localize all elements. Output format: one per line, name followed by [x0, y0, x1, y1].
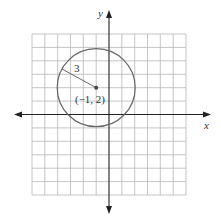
- y-axis-down-arrow-icon: [106, 206, 112, 214]
- y-axis-label: y: [97, 7, 103, 19]
- coordinate-plane: y x 3 (−1, 2): [0, 0, 221, 218]
- radius-label: 3: [74, 62, 80, 74]
- y-axis-up-arrow-icon: [106, 10, 112, 18]
- center-point: [94, 86, 98, 90]
- x-axis-right-arrow-icon: [203, 112, 211, 118]
- x-axis-label: x: [203, 119, 209, 131]
- x-axis-left-arrow-icon: [14, 112, 22, 118]
- center-label: (−1, 2): [75, 93, 105, 106]
- axes: [18, 14, 206, 212]
